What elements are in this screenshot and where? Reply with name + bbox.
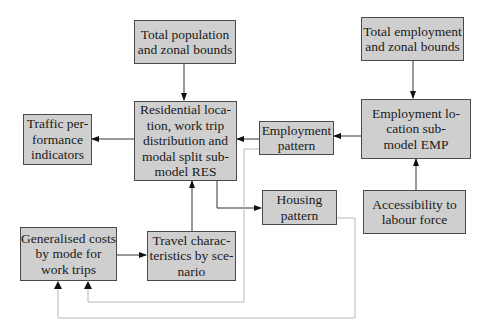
node-employment-location-emp: Employment lo- cation sub- model EMP xyxy=(361,99,471,159)
node-generalised-costs: Generalised costs by mode for work trips xyxy=(20,227,117,281)
arrow-res-to-housing xyxy=(217,180,261,208)
node-travel-characteristics: Travel charac- teristics by sce- nario xyxy=(147,231,236,281)
node-label: Employment lo- cation sub- model EMP xyxy=(372,106,460,153)
node-label: Traffic per- formance indicators xyxy=(27,116,89,163)
node-label: Housing pattern xyxy=(277,192,323,223)
node-employment-pattern: Employment pattern xyxy=(259,121,334,155)
node-residential-res: Residential loca- tion, work trip distri… xyxy=(134,101,237,181)
node-accessibility: Accessibility to labour force xyxy=(363,190,466,234)
node-label: Travel charac- teristics by sce- nario xyxy=(150,233,234,280)
node-traffic-performance: Traffic per- formance indicators xyxy=(23,114,92,165)
node-label: Residential loca- tion, work trip distri… xyxy=(140,102,231,180)
node-label: Generalised costs by mode for work trips xyxy=(21,231,116,278)
node-label: Total employment and zonal bounds xyxy=(363,24,461,55)
node-label: Total population and zonal bounds xyxy=(138,27,232,58)
node-total-population: Total population and zonal bounds xyxy=(134,20,236,64)
node-label: Employment pattern xyxy=(262,123,332,154)
node-total-employment: Total employment and zonal bounds xyxy=(361,17,464,61)
node-label: Accessibility to labour force xyxy=(372,197,456,228)
node-housing-pattern: Housing pattern xyxy=(262,190,337,225)
